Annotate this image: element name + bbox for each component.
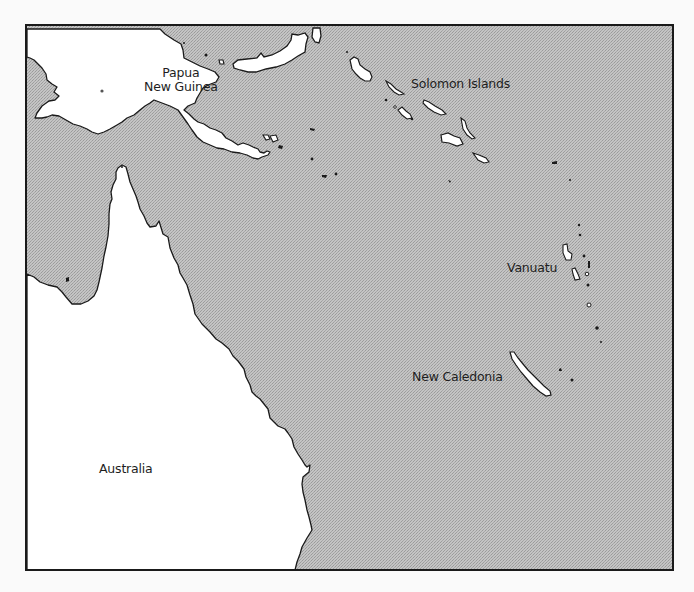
label-solomon-islands: Solomon Islands — [411, 77, 510, 91]
islet — [595, 326, 599, 330]
islet — [411, 118, 413, 120]
islet — [346, 51, 348, 53]
islet — [579, 234, 582, 237]
label-papua: Papua — [144, 66, 218, 80]
islet — [385, 99, 388, 102]
label-new-caledonia: New Caledonia — [412, 370, 503, 384]
islet — [394, 106, 397, 109]
label-papua-new-guinea: Papua New Guinea — [144, 66, 218, 95]
label-australia: Australia — [99, 462, 153, 476]
islet — [587, 284, 590, 287]
islet — [583, 255, 586, 258]
islet — [335, 173, 338, 176]
map-frame: Papua New Guinea Solomon Islands Vanuatu… — [25, 24, 674, 571]
islet — [600, 341, 602, 343]
islet — [578, 224, 580, 226]
islet — [100, 89, 103, 92]
islet — [219, 60, 224, 64]
islet — [569, 179, 571, 181]
islet — [311, 158, 314, 161]
label-vanuatu: Vanuatu — [507, 261, 557, 275]
islet — [183, 42, 185, 44]
islet — [121, 166, 123, 168]
islet — [588, 261, 590, 268]
map-canvas — [27, 26, 674, 571]
islet — [585, 272, 589, 276]
islet — [571, 379, 574, 382]
islet — [205, 54, 208, 57]
label-new-guinea: New Guinea — [144, 80, 218, 94]
islet — [587, 303, 591, 307]
